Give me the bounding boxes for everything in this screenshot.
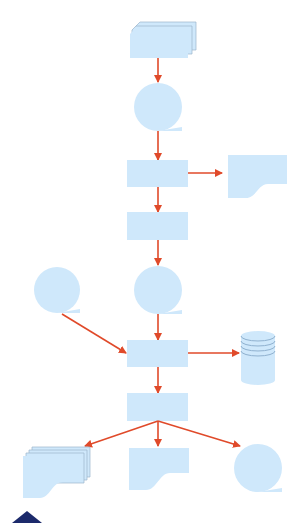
- node-sequential-data[interactable]: [134, 266, 182, 314]
- node-process[interactable]: [127, 340, 188, 367]
- edge-arrow: [62, 314, 126, 353]
- edge-arrow: [85, 421, 158, 446]
- node-process[interactable]: [127, 160, 188, 187]
- flowchart-canvas: [0, 0, 301, 523]
- corner-mark-icon: [12, 511, 42, 523]
- node-multi-document-card[interactable]: [130, 22, 196, 58]
- node-sequential-data[interactable]: [34, 267, 80, 313]
- node-sequential-data[interactable]: [134, 83, 182, 131]
- node-multi-document[interactable]: [23, 447, 90, 498]
- node-database[interactable]: [241, 331, 275, 385]
- edge-arrow: [158, 421, 240, 446]
- node-sequential-data[interactable]: [234, 444, 282, 492]
- node-document[interactable]: [129, 448, 189, 490]
- node-process[interactable]: [127, 212, 188, 240]
- node-document[interactable]: [228, 155, 287, 198]
- node-process[interactable]: [127, 393, 188, 421]
